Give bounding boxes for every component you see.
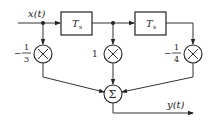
svg-text:1: 1 <box>174 43 179 52</box>
sum-input-line-1 <box>43 63 104 92</box>
tap-line-3 <box>166 23 193 44</box>
svg-text:1: 1 <box>24 43 29 52</box>
input-label: x(t) <box>28 8 46 19</box>
multiplier-1 <box>34 45 52 63</box>
delay-block-1: T s <box>61 12 92 35</box>
delay-block-1-subscript: s <box>79 23 82 30</box>
coefficient-3: − 1 4 <box>164 43 181 64</box>
svg-text:−: − <box>14 48 22 58</box>
block-diagram: x(t) T s T s − 1 3 1 <box>0 0 215 126</box>
sigma-icon: Σ <box>109 88 117 101</box>
coefficient-2: 1 <box>92 49 98 59</box>
sum-input-line-3 <box>122 63 193 92</box>
summer: Σ <box>104 85 122 103</box>
svg-text:4: 4 <box>174 55 179 64</box>
delay-block-2-subscript: s <box>153 23 156 30</box>
multiplier-2 <box>104 45 122 63</box>
svg-text:3: 3 <box>24 55 29 64</box>
delay-block-2: T s <box>135 12 166 35</box>
coefficient-1: − 1 3 <box>14 43 31 64</box>
output-label: y(t) <box>166 99 185 110</box>
svg-text:−: − <box>164 48 172 58</box>
multiplier-3 <box>184 45 202 63</box>
